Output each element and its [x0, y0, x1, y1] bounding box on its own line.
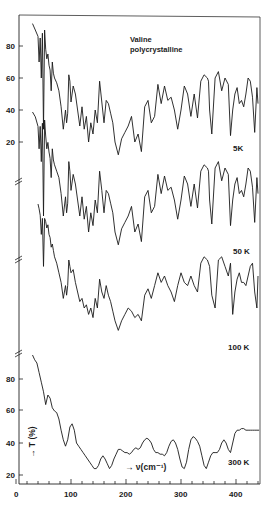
y-axis-label: → T (%): [27, 426, 37, 458]
xtick-300: 300: [174, 490, 188, 499]
ytick-bottom-60: 60: [6, 406, 15, 415]
curve-100k: [38, 204, 258, 330]
xtick-100: 100: [64, 490, 78, 499]
xtick-400: 400: [229, 490, 243, 499]
axis-break-marks: [15, 178, 22, 357]
ytick-bottom-20: 20: [6, 471, 15, 480]
chart-svg: 80 60 40 20 80 60 40 20 0 100 200 300 40…: [0, 0, 267, 506]
series-label-5k: 5K: [233, 144, 243, 153]
y-ticks-bottom: [19, 379, 23, 475]
series-label-50k: 50 K: [233, 247, 250, 256]
ytick-top-80: 80: [6, 42, 15, 51]
ytick-bottom-40: 40: [6, 439, 15, 448]
series-label-100k: 100 K: [228, 343, 250, 352]
chart-title-line1: Valine: [130, 35, 152, 44]
plot-frame: [19, 15, 260, 484]
xtick-200: 200: [119, 490, 133, 499]
xtick-0: 0: [14, 490, 19, 499]
x-ticks: [16, 479, 258, 484]
y-ticks-top: [19, 46, 23, 142]
series-label-300k: 300 K: [228, 458, 250, 467]
ytick-top-40: 40: [6, 106, 15, 115]
curve-300k: [33, 355, 260, 469]
chart-title-line2: polycrystalline: [130, 45, 183, 54]
curve-50k: [33, 112, 259, 245]
ytick-top-20: 20: [6, 138, 15, 147]
ir-transmission-chart: 80 60 40 20 80 60 40 20 0 100 200 300 40…: [0, 0, 267, 506]
ytick-top-60: 60: [6, 74, 15, 83]
ytick-bottom-80: 80: [6, 375, 15, 384]
x-axis-label: → ν(cm⁻¹): [125, 462, 167, 472]
